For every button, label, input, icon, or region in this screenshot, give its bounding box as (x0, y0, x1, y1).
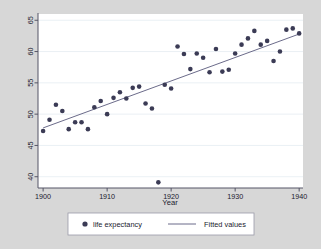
data-point (226, 67, 231, 72)
data-point (258, 42, 263, 47)
x-tick-label: 1940 (291, 192, 307, 201)
data-point (156, 180, 161, 185)
data-point (284, 27, 289, 32)
x-tick-label: 1900 (35, 192, 51, 201)
data-point (297, 31, 302, 36)
data-point (278, 49, 283, 54)
y-tick-label: 50 (27, 110, 36, 118)
y-tick-label: 40 (27, 173, 36, 181)
y-tick-label: 65 (27, 16, 36, 24)
data-point (105, 112, 110, 117)
data-point (150, 106, 155, 111)
data-point (252, 29, 257, 34)
data-point (207, 70, 212, 75)
data-point (233, 51, 238, 56)
data-point (60, 109, 65, 114)
chart-figure: 404550556065 19001910192019301940 Year l… (0, 0, 321, 249)
data-point (137, 84, 142, 89)
data-point (92, 105, 97, 110)
data-point (47, 117, 52, 122)
data-point (239, 42, 244, 47)
legend-label-life-expectancy: life expectancy (93, 220, 142, 229)
y-tick-label: 60 (27, 48, 36, 56)
data-point (265, 39, 270, 44)
data-point (66, 127, 71, 132)
data-point (220, 69, 225, 74)
data-point (79, 120, 84, 125)
x-axis-title: Year (162, 198, 178, 207)
data-point (175, 44, 180, 49)
data-point (271, 59, 276, 64)
data-point (130, 86, 135, 91)
data-point (111, 96, 116, 101)
data-point (188, 67, 193, 72)
data-point (194, 51, 199, 56)
data-point (162, 82, 167, 87)
x-tick-label: 1910 (99, 192, 115, 201)
plot-area-background (38, 14, 303, 188)
data-point (182, 52, 187, 57)
data-point (201, 56, 206, 61)
chart-legend: life expectancy Fitted values (68, 213, 254, 235)
marker-dot-icon (82, 221, 87, 226)
data-point (214, 47, 219, 52)
data-point (169, 86, 174, 91)
data-point (246, 36, 251, 41)
data-point (41, 129, 46, 134)
data-point (118, 90, 123, 95)
data-point (86, 127, 91, 132)
data-point (54, 102, 59, 107)
data-point (124, 96, 129, 101)
data-point (143, 101, 148, 106)
scatter-plot: 404550556065 19001910192019301940 Year l… (0, 0, 321, 249)
y-tick-label: 45 (27, 141, 36, 149)
legend-label-fitted-values: Fitted values (204, 220, 246, 229)
data-point (73, 120, 78, 125)
data-point (98, 99, 103, 104)
x-tick-label: 1930 (227, 192, 243, 201)
data-point (290, 26, 295, 31)
y-tick-label: 55 (27, 79, 36, 87)
